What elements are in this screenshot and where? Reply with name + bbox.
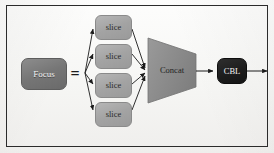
- diagram-canvas: Focus = slice slice slice slice Concat C…: [0, 0, 274, 153]
- fanin-edges: [132, 29, 145, 110]
- concat-trapezoid: [148, 38, 196, 103]
- cbl-node: [217, 58, 247, 84]
- slice-node: [95, 73, 132, 98]
- slice-node: [95, 102, 132, 127]
- slice-node: [95, 15, 132, 40]
- fanout-edges: [85, 29, 93, 110]
- focus-node: [21, 58, 67, 90]
- slice-node: [95, 44, 132, 69]
